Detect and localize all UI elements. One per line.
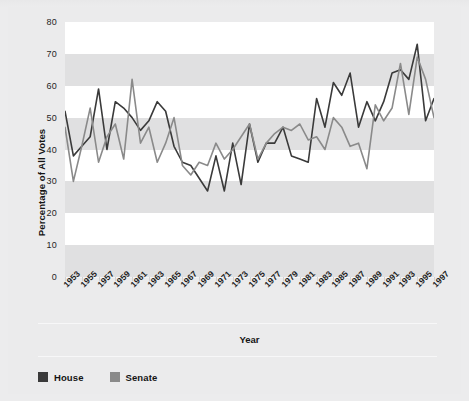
legend-swatch-house — [38, 372, 48, 382]
plot-area — [65, 22, 434, 277]
y-tick-label: 40 — [47, 145, 57, 154]
legend-item-house[interactable]: House — [38, 372, 84, 383]
legend-item-senate[interactable]: Senate — [110, 372, 158, 383]
y-tick-label: 80 — [47, 18, 57, 27]
series-lines — [65, 22, 434, 277]
legend-swatch-senate — [110, 372, 120, 382]
series-line-house — [65, 44, 434, 191]
y-tick-label: 70 — [47, 49, 57, 58]
chart-figure: Percentage of All Votes 0102030405060708… — [0, 0, 469, 401]
x-axis-title: Year — [65, 334, 434, 345]
y-tick-label: 30 — [47, 177, 57, 186]
divider-rule-bottom — [38, 356, 437, 357]
x-axis-tick-labels: 1953195519571959196119631965196719691971… — [65, 283, 434, 323]
y-tick-label: 20 — [47, 209, 57, 218]
y-axis-ticks: 01020304050607080 — [8, 22, 63, 277]
x-tick-label: 1997 — [431, 269, 451, 289]
y-tick-label: 50 — [47, 113, 57, 122]
y-tick-label: 60 — [47, 81, 57, 90]
divider-rule-top — [38, 323, 437, 324]
chart-card: Percentage of All Votes 0102030405060708… — [8, 7, 461, 394]
clipped-title-remnant — [0, 0, 469, 7]
y-tick-label: 10 — [47, 241, 57, 250]
chart-legend: HouseSenate — [38, 367, 157, 387]
series-line-senate — [65, 57, 434, 181]
legend-label: Senate — [126, 372, 158, 383]
y-tick-label: 0 — [52, 273, 57, 282]
legend-label: House — [54, 372, 84, 383]
